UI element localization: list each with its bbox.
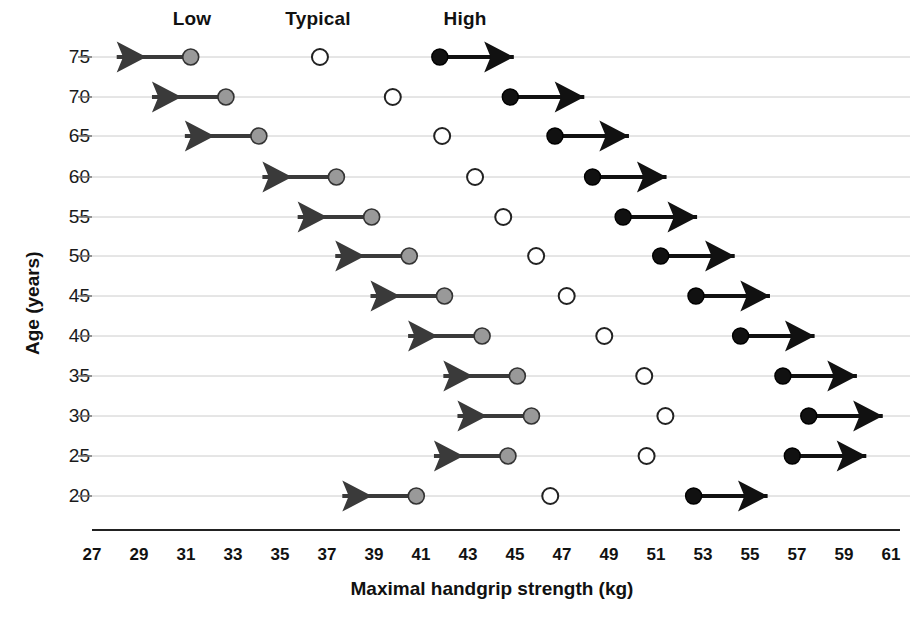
- high-marker: [688, 288, 704, 304]
- high-marker: [686, 488, 702, 504]
- low-marker: [328, 169, 344, 185]
- gridlines: [78, 57, 910, 496]
- typical-marker: [467, 169, 483, 185]
- typical-marker: [385, 89, 401, 105]
- low-marker: [401, 248, 417, 264]
- high-marker: [547, 128, 563, 144]
- high-marker: [775, 368, 791, 384]
- low-marker: [509, 368, 525, 384]
- low-marker: [523, 408, 539, 424]
- typical-marker: [495, 209, 511, 225]
- high-marker: [432, 49, 448, 65]
- typical-marker: [657, 408, 673, 424]
- typical-marker: [528, 248, 544, 264]
- low-marker: [251, 128, 267, 144]
- low-marker: [437, 288, 453, 304]
- low-marker: [500, 448, 516, 464]
- typical-marker: [312, 49, 328, 65]
- high-marker: [784, 448, 800, 464]
- high-marker: [585, 169, 601, 185]
- high-marker: [801, 408, 817, 424]
- typical-marker: [434, 128, 450, 144]
- typical-marker: [636, 368, 652, 384]
- high-marker: [502, 89, 518, 105]
- typical-marker: [559, 288, 575, 304]
- high-marker: [733, 328, 749, 344]
- low-marker: [408, 488, 424, 504]
- high-marker: [615, 209, 631, 225]
- typical-marker: [596, 328, 612, 344]
- low-marker: [474, 328, 490, 344]
- plot-area: [0, 0, 922, 625]
- low-marker: [218, 89, 234, 105]
- typical-marker: [542, 488, 558, 504]
- high-marker: [653, 248, 669, 264]
- handgrip-strength-chart: Low Typical High Age (years) Maximal han…: [0, 0, 922, 625]
- typical-marker: [639, 448, 655, 464]
- data-markers: [78, 49, 883, 504]
- low-marker: [183, 49, 199, 65]
- low-marker: [364, 209, 380, 225]
